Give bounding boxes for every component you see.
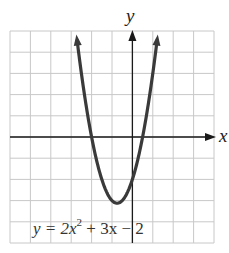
parabola-curve [77,41,157,204]
equation-prefix: y = 2x [31,219,77,238]
equation-label: y = 2x2 + 3x − 2 [31,216,164,238]
svg-text:y = 2x2 + 3x − 2: y = 2x2 + 3x − 2 [31,216,144,238]
x-axis-label: x [218,125,228,146]
equation-suffix: + 3x − 2 [82,219,144,238]
y-axis-arrow-icon [128,30,136,41]
curve-right-arrow-icon [152,35,160,46]
y-axis-label: y [124,5,135,26]
curve-left-arrow-icon [74,35,82,46]
parabola-chart: x y y = 2x2 + 3x − 2 [0,0,229,253]
